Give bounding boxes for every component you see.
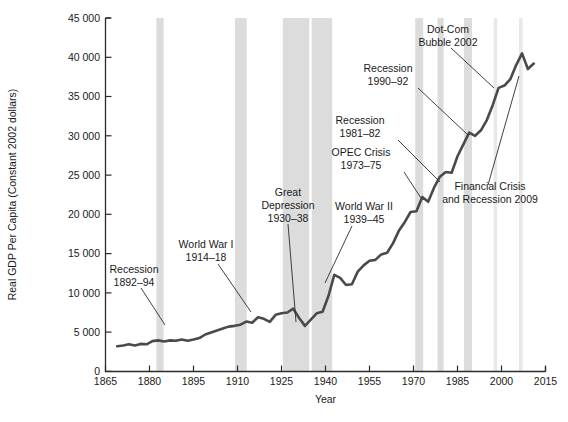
- x-tick-marks: [106, 366, 546, 372]
- annotation-line: World War II: [335, 200, 393, 212]
- annotation-line: Recession: [109, 263, 158, 275]
- annotation-line: Bubble 2002: [419, 36, 478, 48]
- x-tick-label: 1940: [314, 375, 338, 387]
- annotation-line: Recession: [363, 62, 412, 74]
- x-tick-label: 1865: [94, 375, 118, 387]
- annotation-opec-crisis: OPEC Crisis 1973–75: [332, 146, 391, 171]
- annotation-line: 1981–82: [340, 127, 381, 139]
- y-tick-marks: [106, 18, 112, 371]
- annotation-recession-1892: Recession 1892–94: [109, 263, 158, 288]
- x-tick-label: 1880: [138, 375, 162, 387]
- annotation-line: Recession: [335, 114, 384, 126]
- x-tick-label: 1985: [446, 375, 470, 387]
- y-tick-label: 5 000: [74, 326, 100, 338]
- annotation-line: and Recession 2009: [442, 193, 538, 205]
- x-tick-label: 2000: [490, 375, 514, 387]
- annotation-line: 1990–92: [368, 75, 409, 87]
- annotation-line: Financial Crisis: [454, 180, 525, 192]
- gdp-per-capita-chart-figure: 45 000 40 000 35 000 30 000 25 000 20 00…: [0, 0, 568, 422]
- annotation-line: Great: [275, 186, 301, 198]
- y-tick-label: 15 000: [68, 247, 100, 259]
- x-tick-label: 1910: [226, 375, 250, 387]
- annotation-line: OPEC Crisis: [332, 146, 391, 158]
- y-tick-label: 40 000: [68, 51, 100, 63]
- x-tick-labels: 1865 1880 1895 1910 1925 1940 1955 1970 …: [94, 375, 558, 387]
- chart-canvas: 45 000 40 000 35 000 30 000 25 000 20 00…: [0, 0, 568, 422]
- y-tick-label: 25 000: [68, 169, 100, 181]
- x-tick-label: 1970: [402, 375, 426, 387]
- y-tick-label: 10 000: [68, 287, 100, 299]
- leader-financial-crisis: [488, 76, 519, 185]
- annotation-line: Depression: [261, 199, 314, 211]
- annotation-line: 1930–38: [268, 212, 309, 224]
- y-tick-label: 35 000: [68, 90, 100, 102]
- y-tick-labels: 45 000 40 000 35 000 30 000 25 000 20 00…: [68, 12, 100, 377]
- x-tick-label: 1925: [270, 375, 294, 387]
- annotation-line: World War I: [179, 238, 234, 250]
- leader-dotcom-bubble: [451, 48, 494, 88]
- annotation-world-war-2: World War II 1939–45: [335, 200, 393, 225]
- y-tick-label: 30 000: [68, 130, 100, 142]
- annotation-line: 1892–94: [114, 276, 155, 288]
- x-axis-title: Year: [315, 393, 337, 405]
- y-tick-label: 20 000: [68, 208, 100, 220]
- annotation-line: Dot-Com: [427, 23, 469, 35]
- x-tick-label: 2015: [534, 375, 558, 387]
- x-tick-label: 1955: [358, 375, 382, 387]
- annotation-world-war-1: World War I 1914–18: [179, 238, 234, 263]
- band-world-war-2: [312, 18, 333, 371]
- annotation-line: 1914–18: [186, 251, 227, 263]
- annotation-dotcom-bubble: Dot-Com Bubble 2002: [419, 23, 478, 48]
- annotation-recession-1981: Recession 1981–82: [335, 114, 384, 139]
- annotation-financial-crisis: Financial Crisis and Recession 2009: [442, 180, 538, 205]
- annotation-recession-1990: Recession 1990–92: [363, 62, 412, 87]
- y-axis-title: Real GDP Per Capita (Constant 2002 dolla…: [6, 89, 18, 301]
- x-tick-label: 1895: [182, 375, 206, 387]
- annotation-line: 1973–75: [341, 159, 382, 171]
- y-tick-label: 45 000: [68, 12, 100, 24]
- annotation-line: 1939–45: [344, 213, 385, 225]
- band-world-war-1: [235, 18, 247, 371]
